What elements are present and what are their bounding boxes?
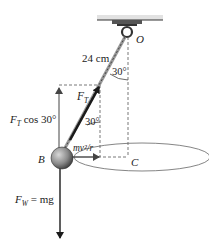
- center-label-c: C: [131, 156, 139, 168]
- ball: [51, 147, 73, 169]
- pivot-ring: [122, 27, 132, 37]
- conical-pendulum-diagram: O 30° 24 cm FT 30° FT cos 30° mv²/r FW =…: [0, 0, 209, 248]
- length-label: 24 cm: [82, 52, 110, 64]
- vertical-component-label: FT cos 30°: [9, 113, 56, 128]
- centripetal-label: mv²/r: [73, 143, 94, 153]
- tension-label: FT: [76, 90, 89, 105]
- angle-label-top: 30°: [112, 66, 127, 77]
- angle-label-force: 30°: [85, 116, 100, 127]
- ceiling: [97, 15, 163, 26]
- ball-label-b: B: [38, 153, 45, 165]
- pivot-label-o: O: [136, 33, 144, 45]
- weight-label: FW = mg: [14, 193, 54, 208]
